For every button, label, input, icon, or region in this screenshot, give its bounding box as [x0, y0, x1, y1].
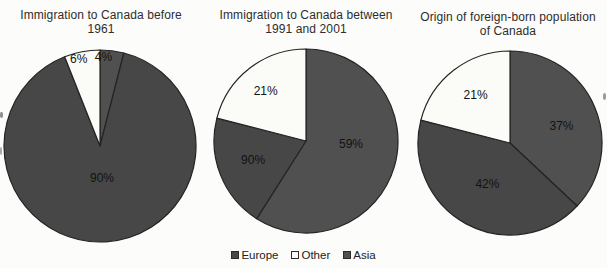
slice-label-other: 21% [254, 84, 278, 98]
legend-label-asia: Asia [353, 249, 375, 261]
legend-label-europe: Europe [241, 249, 278, 261]
chart1-title: Immigration to Canada before 1961 [2, 8, 200, 36]
scan-artifact [0, 112, 3, 118]
slice-label-asia: 4% [95, 50, 112, 64]
scan-artifact [0, 147, 2, 155]
chart2-title: Immigration to Canada between 1991 and 2… [206, 8, 406, 36]
pie-svg [212, 47, 400, 235]
other-swatch-icon [291, 251, 299, 259]
chart1-title-line2: 1961 [2, 22, 200, 36]
pie-chart-1991-2001: 59%90%21% [212, 47, 400, 235]
legend-label-other: Other [301, 249, 330, 261]
chart2-title-line1: Immigration to Canada between [206, 8, 406, 22]
pie-svg [2, 48, 198, 244]
chart3-title-line2: of Canada [406, 24, 607, 38]
slice-label-asia: 59% [339, 137, 363, 151]
slice-label-other: 6% [70, 52, 87, 66]
pie-svg [416, 49, 604, 237]
slice-label-other: 21% [464, 88, 488, 102]
pie-chart-before-1961: 4%90%6% [2, 48, 198, 244]
pie-chart-foreign-born-origin: 37%42%21% [416, 49, 604, 237]
asia-swatch-icon [343, 251, 351, 259]
scan-artifact [603, 93, 606, 100]
legend-item-europe: Europe [231, 249, 278, 261]
chart1-title-line1: Immigration to Canada before [2, 8, 200, 22]
chart2-title-line2: 1991 and 2001 [206, 22, 406, 36]
legend-item-asia: Asia [343, 249, 375, 261]
slice-label-europe: 42% [475, 177, 499, 191]
chart3-title-line1: Origin of foreign-born population [406, 10, 607, 24]
slice-label-europe: 90% [241, 153, 265, 167]
slice-label-asia: 37% [549, 119, 573, 133]
legend-item-other: Other [291, 249, 330, 261]
slice-label-europe: 90% [90, 171, 114, 185]
legend: Europe Other Asia [0, 249, 607, 261]
chart3-title: Origin of foreign-born population of Can… [406, 10, 607, 38]
europe-swatch-icon [231, 251, 239, 259]
